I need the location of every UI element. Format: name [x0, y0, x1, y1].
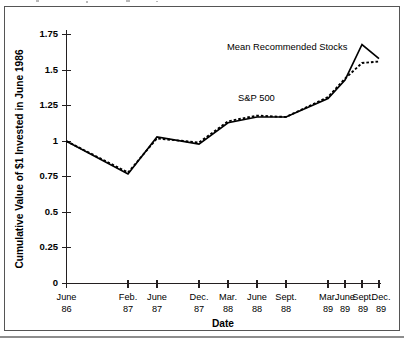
- x-tick-year: 88: [223, 304, 233, 314]
- x-tick-year: 87: [194, 304, 204, 314]
- chart-plot-area: Cumulative Value of $1 Invested in June …: [0, 0, 404, 341]
- y-tick-label: 1: [53, 135, 59, 146]
- x-axis-tick-labels: June 86 Feb. 87 June 87 Dec. 87 Mar. 88 …: [57, 292, 391, 314]
- series-line-sp-500: [67, 62, 380, 173]
- y-tick-label: 0.75: [40, 170, 59, 181]
- y-tick-label: 1.5: [45, 64, 59, 75]
- x-tick-month: Sept.: [275, 292, 296, 302]
- x-tick-month: Sept.: [352, 292, 373, 302]
- x-tick-month: Dec.: [190, 292, 209, 302]
- x-axis-title: Date: [212, 318, 234, 329]
- x-tick-year: 89: [323, 304, 333, 314]
- y-tick-label: 1.75: [40, 28, 59, 39]
- y-tick-label: 1.25: [40, 99, 59, 110]
- y-tick-label: 0.5: [45, 206, 59, 217]
- x-tick-year: 87: [123, 304, 133, 314]
- chart-figure: Cumulative Value of $1 Invested in June …: [0, 0, 404, 341]
- y-axis-title: Cumulative Value of $1 Invested in June …: [14, 49, 25, 268]
- x-tick-month: Dec.: [372, 292, 391, 302]
- y-tick-label: 0.25: [40, 241, 59, 252]
- x-tick-month: June: [57, 292, 77, 302]
- x-tick-year: 89: [340, 304, 350, 314]
- x-tick-month: June: [147, 292, 167, 302]
- x-tick-year: 88: [281, 304, 291, 314]
- annotation-mean-recommended-stocks: Mean Recommended Stocks: [227, 41, 348, 52]
- x-tick-month: Mar.: [219, 292, 237, 302]
- x-tick-year: 89: [358, 304, 368, 314]
- x-tick-month: June: [247, 292, 267, 302]
- x-tick-year: 87: [152, 304, 162, 314]
- x-tick-year: 89: [376, 304, 386, 314]
- series-line-mean-recommended-stocks: [67, 45, 380, 174]
- x-tick-year: 88: [252, 304, 262, 314]
- y-tick-label: 0: [53, 277, 58, 288]
- x-tick-month: Feb.: [119, 292, 137, 302]
- y-axis-tick-labels: 0 0.25 0.5 0.75 1 1.25 1.5 1.75: [40, 28, 59, 288]
- annotation-sp-500: S&P 500: [238, 92, 275, 103]
- x-tick-year: 86: [61, 304, 71, 314]
